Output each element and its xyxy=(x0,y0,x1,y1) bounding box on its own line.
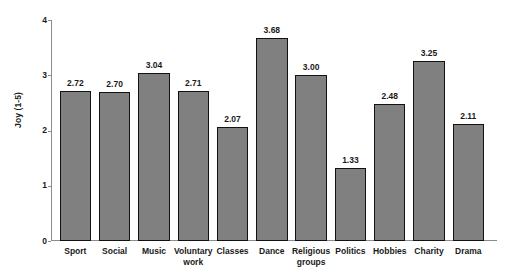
x-axis-label-line: Drama xyxy=(444,246,493,257)
bar-group: 2.11 xyxy=(453,20,484,241)
bar-value-label: 3.04 xyxy=(146,61,163,70)
bar-value-label: 1.33 xyxy=(342,156,359,165)
bar-chart: Joy (1-5) 01234 2.722.703.042.712.073.68… xyxy=(0,0,514,278)
bar-value-label: 2.07 xyxy=(224,115,241,124)
bar-value-label: 3.00 xyxy=(303,63,320,72)
bar[interactable] xyxy=(335,168,366,241)
bar[interactable] xyxy=(60,91,91,241)
bar-group: 3.04 xyxy=(138,20,169,241)
bar[interactable] xyxy=(99,92,130,241)
bar-group: 2.07 xyxy=(217,20,248,241)
y-axis-tick-label: 3 xyxy=(20,71,47,80)
y-axis-tick-label: 4 xyxy=(20,16,47,25)
y-axis-tick-label: 2 xyxy=(20,126,47,135)
bar-value-label: 3.25 xyxy=(421,49,438,58)
bar-value-label: 2.72 xyxy=(67,79,84,88)
y-axis-tick-label: 0 xyxy=(20,237,47,246)
bar[interactable] xyxy=(217,127,248,241)
bar[interactable] xyxy=(138,73,169,241)
x-axis-label-line: groups xyxy=(287,257,336,268)
y-axis-title: Joy (1-5) xyxy=(13,70,23,150)
bar[interactable] xyxy=(295,75,326,241)
bar-group: 2.71 xyxy=(178,20,209,241)
bar-value-label: 3.68 xyxy=(264,26,281,35)
bar[interactable] xyxy=(256,38,287,241)
bar-value-label: 2.48 xyxy=(381,92,398,101)
bar[interactable] xyxy=(453,124,484,241)
bar-group: 3.00 xyxy=(295,20,326,241)
y-axis-tick-label: 1 xyxy=(20,181,47,190)
y-axis-tick-mark xyxy=(48,241,51,242)
bar[interactable] xyxy=(374,104,405,241)
bar-value-label: 2.70 xyxy=(106,80,123,89)
bar-value-label: 2.71 xyxy=(185,79,202,88)
bar-value-label: 2.11 xyxy=(460,112,476,121)
bar-group: 1.33 xyxy=(335,20,366,241)
bar-group: 2.70 xyxy=(99,20,130,241)
bar-group: 2.48 xyxy=(374,20,405,241)
bar[interactable] xyxy=(413,61,444,241)
x-axis-label-line: work xyxy=(169,257,218,268)
bar-group: 2.72 xyxy=(60,20,91,241)
bar[interactable] xyxy=(178,91,209,241)
bar-group: 3.25 xyxy=(413,20,444,241)
plot-area: 2.722.703.042.712.073.683.001.332.483.25… xyxy=(51,20,497,241)
x-axis-label: Drama xyxy=(444,246,493,257)
bar-group: 3.68 xyxy=(256,20,287,241)
